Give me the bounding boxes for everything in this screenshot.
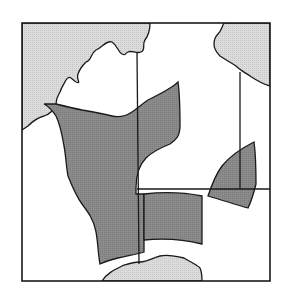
map-diagram	[0, 0, 284, 296]
highlight-lower-block	[144, 193, 202, 244]
